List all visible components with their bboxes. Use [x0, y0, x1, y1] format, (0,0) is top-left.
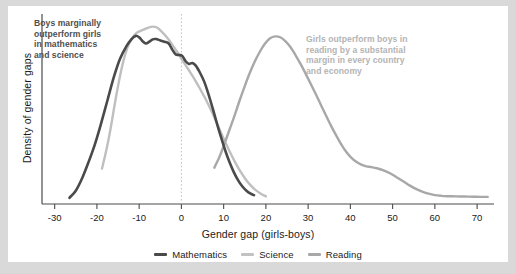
chart-card: -30-20-10010203040506070 Density of gend…	[8, 6, 508, 262]
legend-swatch-mathematics	[154, 253, 167, 256]
x-axis-tick-label: 10	[218, 212, 229, 223]
x-axis-tick-label: -30	[48, 212, 62, 223]
legend-swatch-reading	[308, 253, 321, 256]
x-axis-tick-label: 20	[261, 212, 272, 223]
x-axis-label: Gender gap (girls-boys)	[8, 228, 508, 240]
legend-label-mathematics: Mathematics	[172, 249, 227, 260]
chart-legend: Mathematics Science Reading	[8, 249, 508, 260]
x-axis-tick-label: 70	[472, 212, 483, 223]
x-axis-tick-label: 60	[430, 212, 441, 223]
annotation-girls-note: Girls outperform boys in reading by a su…	[306, 34, 436, 76]
legend-label-reading: Reading	[326, 249, 362, 260]
legend-label-science: Science	[259, 249, 294, 260]
chart-screenshot: -30-20-10010203040506070 Density of gend…	[0, 0, 516, 274]
annotation-boys-note: Boys marginally outperform girls in math…	[34, 18, 134, 60]
legend-item-mathematics[interactable]: Mathematics	[154, 249, 227, 260]
legend-item-reading[interactable]: Reading	[308, 249, 362, 260]
y-axis-label: Density of gender gaps	[21, 33, 33, 183]
x-axis-tick-label: 40	[345, 212, 356, 223]
legend-item-science[interactable]: Science	[241, 249, 294, 260]
x-axis-tick-label: 50	[387, 212, 398, 223]
x-axis-tick-label: -10	[132, 212, 146, 223]
legend-swatch-science	[241, 253, 254, 256]
x-axis-tick-label: -20	[90, 212, 104, 223]
x-axis-tick-label: 0	[179, 212, 184, 223]
x-axis-tick-label: 30	[303, 212, 314, 223]
